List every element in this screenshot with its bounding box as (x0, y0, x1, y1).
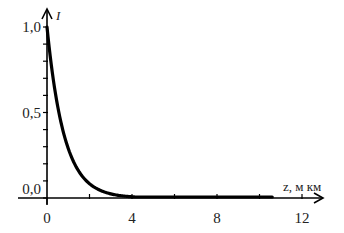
x-tick-label: 4 (128, 210, 136, 226)
tick-labels: 048120,00,51,0 (22, 19, 309, 226)
y-tick-label: 0,5 (22, 105, 41, 121)
y-axis-label: I (55, 8, 61, 23)
chart: 048120,00,51,0 I z, м км (0, 0, 344, 233)
x-tick-label: 12 (295, 210, 310, 226)
series-line (47, 27, 272, 197)
axes (18, 9, 323, 205)
x-tick-label: 0 (43, 210, 51, 226)
x-tick-label: 8 (213, 210, 221, 226)
x-axis-label: z, м км (283, 179, 321, 194)
y-tick-label: 1,0 (22, 19, 41, 35)
y-tick-label: 0,0 (22, 181, 41, 197)
